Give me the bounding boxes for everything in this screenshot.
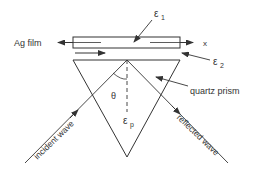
x-axis-label: x	[203, 39, 207, 48]
eps2-label: ε	[213, 56, 218, 67]
incident-arrow	[70, 110, 78, 118]
ag-film-label: Ag film	[14, 38, 42, 48]
reflected-wave-label: reflected wave	[175, 112, 222, 157]
theta-arc	[113, 73, 127, 79]
prism-label: quartz prism	[190, 86, 240, 96]
reflected-arrow	[172, 106, 180, 114]
quartz-prism	[73, 60, 180, 157]
incident-wave-label: incident wave	[32, 118, 76, 161]
eps1-pointer	[134, 20, 152, 42]
eps2-pointer	[182, 53, 210, 60]
epsp-sub: p	[130, 121, 134, 129]
prism-pointer	[156, 77, 188, 86]
epsp-label: ε	[123, 115, 128, 126]
diagram-canvas: Ag film x ε 1 ε 2 quartz prism θ ε p inc…	[0, 0, 262, 180]
eps1-label: ε	[154, 8, 159, 19]
eps1-sub: 1	[161, 14, 165, 21]
theta-label: θ	[111, 91, 116, 101]
eps2-sub: 2	[220, 62, 224, 69]
